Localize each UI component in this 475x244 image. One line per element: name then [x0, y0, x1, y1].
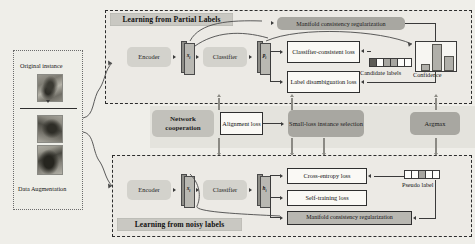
pseudo-cell — [433, 171, 439, 178]
line-h-to-mf — [270, 217, 281, 218]
arrow-pseudo-to-ce — [368, 174, 371, 178]
argmax-box: Argmax — [410, 112, 460, 135]
thick-arrow-down-mid2 — [322, 138, 326, 156]
label-disambiguation-loss-box: Label disambiguation loss — [287, 71, 360, 93]
confidence-bar — [432, 44, 442, 71]
figure-canvas: Original instance Data Augmentation Lear… — [0, 0, 475, 244]
partial-feature-label: xi — [184, 52, 193, 60]
line-p-to-cc — [270, 51, 281, 52]
arrow-candidate-to-cc — [361, 49, 364, 53]
arrow-into-manifold — [271, 21, 274, 25]
pseudo-cell — [405, 171, 412, 178]
line-alignment-to-selection — [263, 123, 282, 124]
noisy-encoder-box: Encoder — [127, 180, 171, 200]
noisy-prediction-label: hi — [260, 185, 269, 193]
thumbnail-original — [37, 74, 63, 102]
line-h-to-ce — [270, 175, 281, 176]
thumbnail-augmented-1 — [37, 115, 63, 143]
line-pseudo-to-ce — [374, 176, 404, 177]
arrow-noisy-classifier-to-prediction — [249, 188, 252, 192]
confidence-bar — [444, 56, 454, 71]
candidate-cell — [384, 59, 391, 66]
line-manifold-to-conf — [405, 23, 435, 24]
partial-classifier-box: Classifier — [203, 47, 247, 67]
noisy-manifold-box: Manifold consistency regularization — [287, 211, 412, 225]
arrow-classifier-to-prediction — [249, 55, 252, 59]
line-h-branch — [270, 175, 271, 218]
thick-arrow-down-mid — [290, 138, 294, 156]
network-cooperation-title: Network cooperation — [152, 110, 214, 137]
thick-arrow-up-mid — [290, 94, 294, 110]
noisy-labels-title: Learning from noisy labels — [117, 218, 242, 231]
arrow-noisy-feature-to-classifier — [196, 188, 199, 192]
noisy-feature-label: xi — [184, 185, 193, 193]
curve-input-to-noisy — [83, 132, 112, 186]
candidate-cell — [391, 59, 398, 66]
line-manifold-conf-down — [435, 23, 436, 41]
arrow-noisy-encoder-to-feature — [173, 188, 176, 192]
partial-manifold-box: Manifold consistency regularization — [277, 17, 405, 30]
pseudo-label-strip — [404, 170, 440, 179]
pseudo-cell — [426, 171, 433, 178]
noisy-feature-slab: xi — [181, 174, 194, 204]
line-h-to-st — [270, 197, 281, 198]
augment-arrow — [46, 100, 50, 103]
line-pseudo-down — [435, 180, 436, 218]
thick-arrow-up-right — [434, 94, 438, 110]
cross-entropy-loss-box: Cross-entropy loss — [287, 168, 367, 184]
confidence-caption: Confidence — [413, 71, 442, 78]
thumbnail-augmented-2 — [37, 145, 63, 175]
line-candidate-to-cc — [367, 51, 371, 52]
arrow-pseudo-to-manifold — [413, 216, 416, 220]
arrow-conf-to-ld — [361, 80, 364, 84]
thick-arrow-up-left — [217, 94, 221, 110]
data-augmentation-label: Data Augmentation — [18, 185, 66, 192]
pseudo-cell — [412, 171, 419, 178]
line-conf-down — [435, 71, 436, 83]
confidence-chart — [415, 41, 457, 72]
thick-arrow-down-left — [217, 138, 221, 156]
classifier-consistent-loss-box: Classifier-consistent loss — [287, 41, 360, 63]
candidate-labels-caption: Candidate labels — [360, 69, 401, 76]
line-pseudo-to-manifold — [419, 218, 436, 219]
partial-feature-slab: xi — [181, 41, 194, 71]
alignment-loss-box: Alignment loss — [220, 112, 263, 135]
original-instance-label: Original instance — [20, 62, 62, 69]
noisy-prediction-slab: hi — [257, 174, 270, 204]
pseudo-label-caption: Pseudo label — [402, 181, 433, 188]
line-p-to-ld — [270, 81, 281, 82]
small-loss-selection-box: Small-loss instance selection — [288, 110, 364, 137]
self-training-loss-box: Self-training loss — [287, 190, 367, 206]
arrow-feature-to-classifier — [196, 55, 199, 59]
candidate-labels-strip — [369, 58, 412, 67]
partial-encoder-box: Encoder — [127, 47, 171, 67]
partial-prediction-slab: pi — [257, 41, 270, 71]
line-p-branch — [270, 51, 271, 82]
candidate-cell — [370, 59, 377, 66]
candidate-cell — [405, 59, 411, 66]
noisy-classifier-box: Classifier — [203, 180, 247, 200]
line-conf-to-ld — [367, 82, 435, 83]
thick-arrow-down-right — [434, 138, 438, 156]
confidence-bar — [421, 64, 430, 71]
pseudo-cell — [419, 171, 426, 178]
arrow-encoder-to-feature — [173, 55, 176, 59]
partial-labels-title: Learning from Partial Labels — [110, 13, 233, 26]
partial-prediction-label: pi — [260, 52, 269, 60]
panel-divider — [20, 108, 77, 109]
candidate-cell — [377, 59, 384, 66]
network-cooperation-label: Network cooperation — [152, 115, 214, 131]
candidate-cell — [398, 59, 405, 66]
